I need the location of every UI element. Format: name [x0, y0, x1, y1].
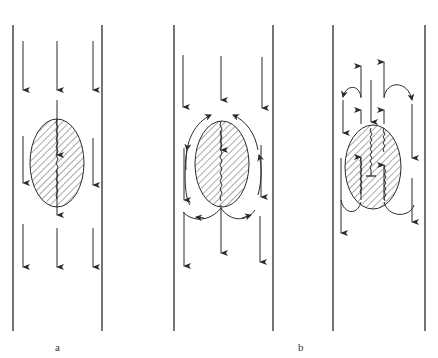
- panel-1: [13, 25, 102, 331]
- label-a: a: [55, 341, 60, 353]
- panel-3: [333, 25, 425, 331]
- diagram-canvas: [0, 0, 438, 358]
- hatched-particle: [345, 125, 401, 209]
- label-b: b: [298, 341, 304, 353]
- panel-2: [174, 25, 273, 331]
